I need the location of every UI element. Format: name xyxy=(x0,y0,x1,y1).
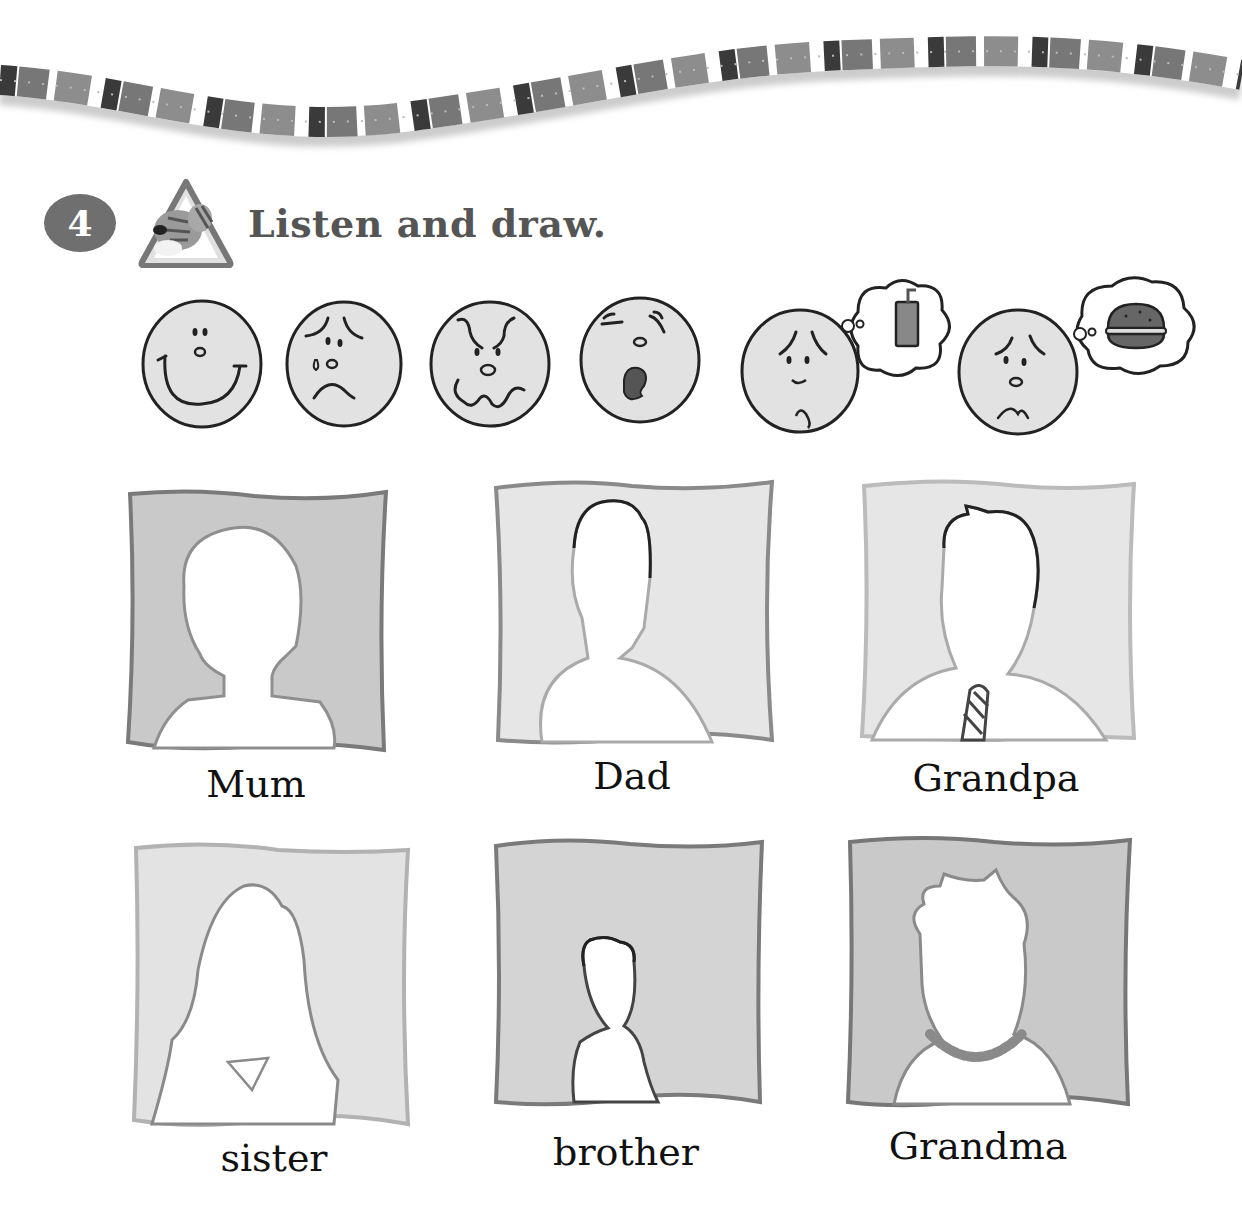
portrait-frame-dad xyxy=(492,478,776,750)
exercise-number-badge: 4 xyxy=(44,194,116,252)
portrait-frame-grandma xyxy=(844,834,1134,1116)
rope-border-decoration xyxy=(0,0,1242,170)
thirsty-face-icon xyxy=(740,274,958,434)
exercise-header: 4 Listen and draw. xyxy=(44,178,607,268)
portrait-frame-grandpa xyxy=(858,478,1138,748)
portrait-label-mum: Mum xyxy=(106,762,406,806)
happy-face-icon xyxy=(140,298,264,430)
portrait-label-grandpa: Grandpa xyxy=(846,756,1146,800)
hungry-face-icon xyxy=(956,272,1206,436)
portrait-label-dad: Dad xyxy=(482,754,782,798)
portrait-label-brother: brother xyxy=(476,1130,776,1174)
emotion-faces-row xyxy=(0,270,1242,440)
portrait-frame-mum xyxy=(124,486,392,754)
angry-face-icon xyxy=(428,298,552,430)
yawning-face-icon xyxy=(578,294,702,426)
exercise-instruction: Listen and draw. xyxy=(248,201,607,246)
portrait-label-sister: sister xyxy=(124,1136,424,1180)
tiger-listen-icon xyxy=(138,178,234,268)
portrait-frame-sister xyxy=(128,840,412,1130)
portrait-label-grandma: Grandma xyxy=(828,1124,1128,1168)
crying-face-icon xyxy=(284,298,404,430)
portrait-frame-brother xyxy=(490,836,766,1116)
